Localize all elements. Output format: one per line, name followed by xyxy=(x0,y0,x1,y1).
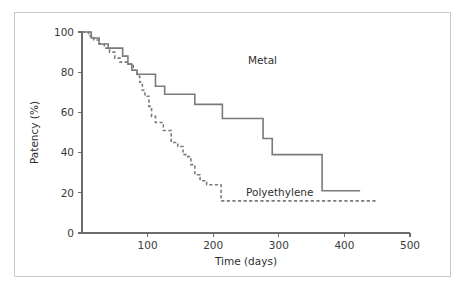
series-line-metal xyxy=(82,32,360,191)
y-tick-label-0: 0 xyxy=(67,227,74,239)
x-tick-label-400: 400 xyxy=(334,239,354,251)
series-group xyxy=(82,32,378,201)
series-annotations: MetalMetalPolyethylenePolyethylene xyxy=(246,54,313,198)
y-tick-label-80: 80 xyxy=(61,66,74,78)
figure-container: 020406080100100200300400500Time (days)Pa… xyxy=(0,0,466,290)
x-tick-label-100: 100 xyxy=(138,239,158,251)
y-tick-label-40: 40 xyxy=(61,146,74,158)
y-tick-label-100: 100 xyxy=(54,26,74,38)
x-tick-label-200: 200 xyxy=(203,239,223,251)
series-label-polyethylene: Polyethylene xyxy=(246,186,313,198)
x-axis-title: Time (days) xyxy=(214,255,277,267)
y-axis-title: Patency (%) xyxy=(28,101,40,164)
x-tick-label-300: 300 xyxy=(269,239,289,251)
y-tick-label-60: 60 xyxy=(61,106,74,118)
chart-canvas: 020406080100100200300400500Time (days)Pa… xyxy=(0,0,466,290)
series-label-metal: Metal xyxy=(248,54,277,66)
axes-group: 020406080100100200300400500Time (days)Pa… xyxy=(28,26,420,267)
y-tick-label-20: 20 xyxy=(61,187,74,199)
x-tick-label-500: 500 xyxy=(400,239,420,251)
series-line-polyethylene xyxy=(82,32,378,201)
